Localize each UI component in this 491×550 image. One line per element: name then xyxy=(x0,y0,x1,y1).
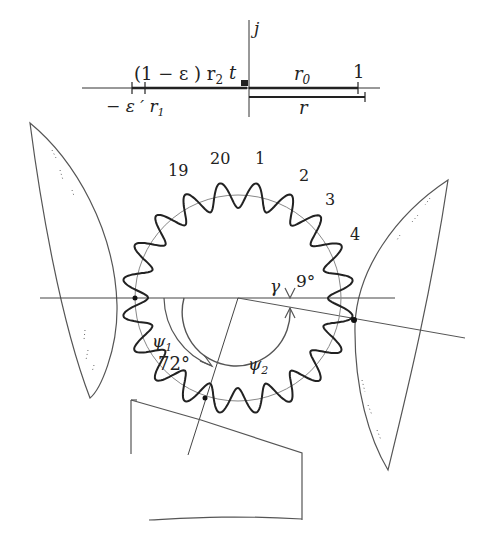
tooth-label-4: 4 xyxy=(350,225,360,244)
gamma-arrowhead xyxy=(285,288,295,298)
left-lens-shape xyxy=(30,123,117,398)
tooth-label-1: 1 xyxy=(255,149,265,168)
gamma-value: 9° xyxy=(296,271,315,291)
one-label: 1 xyxy=(353,61,364,82)
tooth-label-3: 3 xyxy=(325,190,335,209)
gamma-label: γ xyxy=(270,276,281,296)
t-label: t xyxy=(229,62,237,83)
contact-point-right xyxy=(351,317,357,323)
tooth-label-20: 20 xyxy=(210,149,230,168)
axis-diagram: j (1 − ε ) r2 t r0 1 − ε ′ r1 r xyxy=(82,18,380,119)
upper-left-label: (1 − ε ) r2 xyxy=(134,63,223,87)
right-lens-shape xyxy=(355,180,448,470)
tooth-label-19: 19 xyxy=(168,161,188,180)
r0-label: r0 xyxy=(294,63,311,87)
diagram-canvas: j (1 − ε ) r2 t r0 1 − ε ′ r1 r γ 9° ψ1 … xyxy=(0,0,491,550)
psi1-label: ψ1 xyxy=(152,331,172,354)
r-label: r xyxy=(299,97,309,118)
t-marker xyxy=(241,80,248,86)
tooth-label-2: 2 xyxy=(299,166,309,185)
contact-point-left xyxy=(133,296,138,301)
contact-point-bottom xyxy=(203,396,208,401)
oblique-line xyxy=(188,298,238,455)
base-block xyxy=(131,400,302,520)
j-label: j xyxy=(250,18,260,38)
lower-left-label: − ε ′ r1 xyxy=(106,96,165,119)
psi2-arc xyxy=(182,298,290,366)
psi1-value: 72° xyxy=(158,353,190,374)
